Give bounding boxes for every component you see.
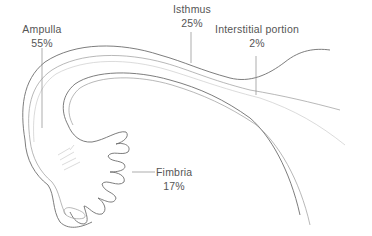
ampulla-body-left-inner bbox=[30, 140, 66, 215]
tube-inner-contour bbox=[63, 73, 300, 215]
fimbria-texture bbox=[58, 145, 80, 170]
interstitial-label: Interstitial portion 2% bbox=[212, 22, 302, 50]
isthmus-label: Isthmus 25% bbox=[170, 2, 214, 30]
isthmus-name: Isthmus bbox=[170, 2, 214, 16]
interstitial-percent: 2% bbox=[212, 36, 302, 50]
isthmus-percent: 25% bbox=[170, 16, 214, 30]
interstitial-name: Interstitial portion bbox=[212, 22, 302, 36]
tube-lumen-line bbox=[34, 61, 345, 145]
ampulla-percent: 55% bbox=[20, 36, 64, 50]
fimbria-percent: 17% bbox=[156, 179, 192, 193]
fimbriae bbox=[68, 125, 129, 224]
ampulla-body-left bbox=[25, 140, 92, 227]
fallopian-tube-diagram: Ampulla 55% Isthmus 25% Interstitial por… bbox=[0, 0, 372, 236]
fimbria-name: Fimbria bbox=[156, 165, 192, 179]
ampulla-name: Ampulla bbox=[20, 22, 64, 36]
ampulla-label: Ampulla 55% bbox=[20, 22, 64, 50]
tube-inner-wall bbox=[69, 78, 310, 225]
tube-wall-line bbox=[29, 55, 340, 140]
fimbria-label: Fimbria 17% bbox=[156, 165, 192, 193]
fimbria-inner-fold bbox=[64, 208, 85, 219]
